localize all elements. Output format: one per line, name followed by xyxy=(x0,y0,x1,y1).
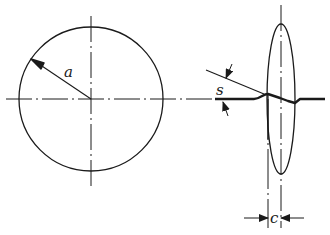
diagram-canvas: a s c xyxy=(0,0,330,235)
radius-arrowhead-icon xyxy=(31,59,44,69)
deformed-profile-line xyxy=(215,94,325,103)
circle-view: a xyxy=(6,16,214,186)
radius-label: a xyxy=(64,63,73,81)
angle-arrow-lower xyxy=(223,102,228,116)
ellipse-view: s c xyxy=(206,5,325,228)
angle-label: s xyxy=(216,81,224,99)
width-label: c xyxy=(270,209,279,227)
angle-arrow-upper xyxy=(226,64,232,78)
angle-reference-line xyxy=(206,70,264,94)
